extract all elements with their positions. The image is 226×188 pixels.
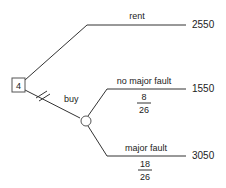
decision-node-value: 4 — [16, 81, 21, 91]
decision-tree: rent 2550 buy 4 no major fault 1550 8 26… — [0, 0, 226, 188]
chance-node — [81, 116, 91, 126]
rent-label: rent — [129, 11, 145, 21]
major-fault-label: major fault — [125, 143, 168, 153]
no-major-fault-label: no major fault — [117, 76, 172, 86]
no-major-fault-payoff: 1550 — [192, 83, 215, 94]
no-major-fault-prob-denominator: 26 — [139, 105, 149, 115]
buy-label: buy — [64, 94, 79, 104]
major-fault-prob-numerator: 18 — [140, 159, 150, 169]
no-major-fault-prob-numerator: 8 — [141, 92, 146, 102]
major-fault-payoff: 3050 — [192, 150, 215, 161]
rent-branch-line — [25, 25, 186, 80]
major-fault-prob-denominator: 26 — [140, 172, 150, 182]
rent-payoff: 2550 — [192, 19, 215, 30]
